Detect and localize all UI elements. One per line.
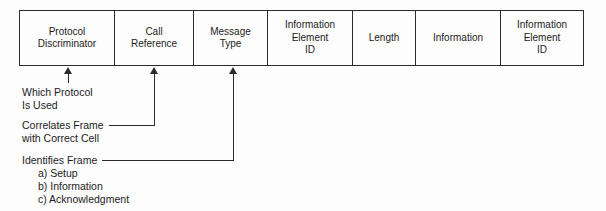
frame-field-row: Protocol Discriminator Call Reference Me…	[19, 10, 584, 66]
note-identifies-frame: Identifies Frame	[22, 154, 97, 167]
note-which-protocol: Which Protocol Is Used	[22, 86, 93, 112]
list-item-information: b) Information	[38, 180, 129, 193]
frame-field-call-reference: Call Reference	[114, 10, 194, 66]
arrow-line-correlates-vertical	[154, 73, 155, 126]
frame-field-information-element-id-2: Information Element ID	[500, 10, 584, 66]
list-item-setup: a) Setup	[38, 167, 129, 180]
list-item-acknowledgment: c) Acknowledgment	[38, 193, 129, 206]
arrow-line-which-protocol	[68, 73, 69, 83]
note-correlates-frame: Correlates Frame with Correct Cell	[22, 119, 104, 145]
frame-field-protocol-discriminator: Protocol Discriminator	[19, 10, 115, 66]
arrow-line-identifies-vertical	[233, 73, 234, 161]
arrow-line-identifies-horizontal	[102, 160, 234, 161]
frame-field-information: Information	[415, 10, 501, 66]
frame-field-message-type: Message Type	[193, 10, 268, 66]
identifies-frame-list: a) Setup b) Information c) Acknowledgmen…	[38, 167, 129, 206]
arrow-line-correlates-horizontal	[109, 125, 155, 126]
frame-field-information-element-id-1: Information Element ID	[267, 10, 353, 66]
frame-format-diagram: Protocol Discriminator Call Reference Me…	[0, 0, 606, 211]
frame-field-length: Length	[352, 10, 416, 66]
